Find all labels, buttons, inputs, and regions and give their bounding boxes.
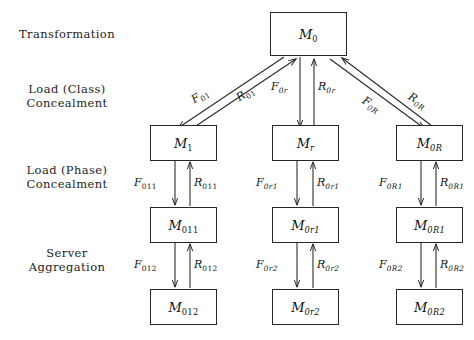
node-m011[interactable]: M011 bbox=[150, 207, 217, 243]
node-label: M1 bbox=[174, 136, 193, 151]
edge-label-f01: F01 bbox=[189, 85, 211, 106]
node-m0R2[interactable]: M0R2 bbox=[396, 289, 463, 325]
row-label-transformation: Transformation bbox=[6, 27, 128, 41]
node-label: Mr bbox=[297, 136, 315, 151]
row-label-load-class-concealment: Load (Class) Concealment bbox=[6, 82, 128, 110]
edge-label-r01: R01 bbox=[234, 83, 257, 104]
edge-label-f012: F012 bbox=[134, 258, 157, 271]
node-mr[interactable]: Mr bbox=[272, 125, 339, 161]
node-label: M0 bbox=[299, 27, 318, 42]
edge-label-r0r: R0r bbox=[318, 80, 335, 93]
node-label: M0r1 bbox=[291, 218, 320, 233]
node-label: M011 bbox=[168, 218, 198, 233]
edge-label-f0r1: F0r1 bbox=[256, 176, 278, 189]
node-label: M0R2 bbox=[414, 300, 445, 315]
node-m0R[interactable]: M0R bbox=[396, 125, 463, 161]
node-label: M0R1 bbox=[414, 218, 445, 233]
node-m0R1[interactable]: M0R1 bbox=[396, 207, 463, 243]
edge-label-r012: R012 bbox=[194, 258, 218, 271]
node-label: M0r2 bbox=[291, 300, 320, 315]
row-label-load-phase-concealment: Load (Phase) Concealment bbox=[6, 163, 128, 191]
edge-label-f0R2: F0R2 bbox=[379, 258, 403, 271]
edge-label-r0R: R0R bbox=[406, 90, 429, 111]
node-m012[interactable]: M012 bbox=[150, 289, 217, 325]
edge-label-f0r2: F0r2 bbox=[256, 258, 278, 271]
edge-label-f011: F011 bbox=[134, 176, 157, 189]
node-m0r1[interactable]: M0r1 bbox=[272, 207, 339, 243]
edge-label-r011: R011 bbox=[194, 176, 218, 189]
edge-label-f0R: F0R bbox=[360, 94, 383, 115]
edge-label-r0R1: R0R1 bbox=[440, 176, 464, 189]
node-label: M012 bbox=[168, 300, 198, 315]
edge-label-r0r1: R0r1 bbox=[317, 176, 339, 189]
node-m0[interactable]: M0 bbox=[270, 12, 347, 56]
node-m1[interactable]: M1 bbox=[150, 125, 217, 161]
edge-label-r0R2: R0R2 bbox=[440, 258, 464, 271]
node-m0r2[interactable]: M0r2 bbox=[272, 289, 339, 325]
row-label-server-aggregation: Server Aggregation bbox=[6, 246, 128, 274]
diagram-canvas: Transformation Load (Class) Concealment … bbox=[0, 0, 474, 340]
edge-label-f0R1: F0R1 bbox=[379, 176, 403, 189]
edge-label-f0r: F0r bbox=[271, 80, 288, 93]
edge-label-r0r2: R0r2 bbox=[317, 258, 339, 271]
node-label: M0R bbox=[417, 136, 442, 151]
